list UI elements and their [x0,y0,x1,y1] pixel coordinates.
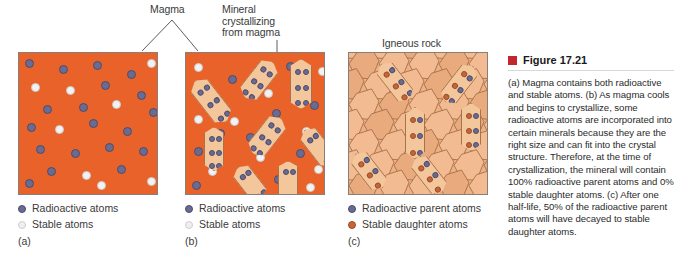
radioactive-parent-atom [457,86,465,94]
radioactive-parent-atom [303,100,309,106]
radioactive-parent-atom [295,69,301,75]
callout-label-magma: Magma [150,4,185,16]
figure-caption-block: Figure 17.21 (a) Magma contains both rad… [508,54,674,238]
panel-a-magma [18,52,158,195]
mineral-crystal [405,107,425,159]
radioactive-atom [59,65,68,74]
radioactive-parent-atom [465,75,473,83]
figure-17-21: Magma Mineral crystallizing from magma I… [0,0,680,264]
stable-atom [82,171,91,180]
stable-atom [97,181,106,190]
callout-label-igneous: Igneous rock [382,38,441,50]
radioactive-parent-atom [207,101,215,109]
figure-marker-icon [508,56,517,65]
leader-line-magma-right [172,20,198,51]
radioactive-parent-atom [257,82,265,90]
radioactive-atom [101,81,110,90]
mineral-crystal [297,124,325,171]
radioactive-atom [36,145,45,154]
radioactive-parent-atom [473,128,479,134]
radioactive-parent-atom [209,136,215,142]
legend-panel-c: Radioactive parent atoms Stable daughter… [348,202,481,248]
stable-daughter-atom [410,150,416,156]
panel-c-igneous-rock [348,52,488,195]
mineral-crystal [461,103,481,151]
radioactive-parent-atom [295,85,301,91]
stable-daughter-atom [466,113,472,119]
radioactive-atom [149,108,158,117]
stable-atom [194,63,203,72]
radioactive-parent-atom [290,194,296,195]
radioactive-atom [139,147,148,156]
radioactive-parent-atom [274,127,282,135]
mineral-crystal [278,161,298,195]
figure-caption-text: (a) Magma contains both radioactive and … [508,77,674,238]
legend-panel-b: Radioactive atoms Stable atoms (b) [185,202,285,248]
radioactive-parent-atom [209,150,215,156]
radioactive-atom [25,59,34,68]
radioactive-parent-atom [248,93,256,101]
radioactive-parent-atom [216,163,222,169]
radioactive-parent-atom [283,194,289,195]
radioactive-atom [272,109,281,118]
stable-atom [306,183,315,192]
leader-line-magma-left [142,20,172,51]
radioactive-parent-atom [417,117,423,123]
stable-atom [147,59,156,68]
radioactive-atom [27,123,36,132]
figure-heading-text: Figure 17.21 [523,54,587,66]
radioactive-parent-atom [417,133,423,139]
legend-label: Stable atoms [32,218,93,231]
legend-label: Radioactive atoms [199,202,285,215]
radioactive-parent-atom [203,84,211,92]
radioactive-parent-atom [265,138,273,146]
radioactive-parent-atom [283,169,289,175]
mineral-crystal [230,161,270,195]
radioactive-atom [123,127,132,136]
mineral-crystal [236,55,282,105]
radioactive-atom [194,147,203,156]
callout-label-mineral: Mineral crystallizing from magma [222,4,280,39]
legend-label: Radioactive parent atoms [362,202,481,215]
legend-label: Radioactive atoms [32,202,118,215]
radioactive-atom [71,149,80,158]
legend-item: Radioactive atoms [185,202,285,215]
legend-item: Radioactive atoms [18,202,118,215]
legend-item: Stable daughter atoms [348,218,481,231]
radioactive-parent-atom-swatch-icon [348,205,356,213]
stable-atom [318,67,325,76]
radioactive-parent-atom [295,100,301,106]
mineral-crystal [204,127,224,171]
stable-atom-swatch-icon [185,221,193,229]
stable-daughter-atom [466,128,472,134]
legend-panel-a: Radioactive atoms Stable atoms (a) [18,202,118,248]
radioactive-parent-atom [290,169,296,175]
legend-item: Radioactive parent atoms [348,202,481,215]
stable-daughter-atom [466,142,472,148]
radioactive-atom-swatch-icon [18,205,26,213]
mineral-crystal [290,59,312,109]
panel-tag-b: (b) [185,235,285,248]
radioactive-atom [47,167,56,176]
radioactive-parent-atom [260,188,268,195]
radioactive-parent-atom [197,89,205,97]
radioactive-parent-atom [266,71,274,79]
panel-b-crystallizing [185,52,325,195]
radioactive-parent-atom [473,113,479,119]
legend-label: Stable atoms [199,218,260,231]
radioactive-parent-atom [223,109,231,117]
radioactive-atom [79,103,88,112]
radioactive-parent-atom [303,69,309,75]
stable-atom [314,165,323,174]
panel-tag-c: (c) [348,235,481,248]
stable-atom [55,125,64,134]
stable-atom [194,115,203,124]
radioactive-atom [228,75,237,84]
stable-atom-swatch-icon [18,221,26,229]
radioactive-atom [296,149,305,158]
stable-atom [264,89,273,98]
legend-label: Stable daughter atoms [362,218,468,231]
radioactive-atom [25,179,34,188]
radioactive-atom [93,61,102,70]
radioactive-atom [117,165,126,174]
